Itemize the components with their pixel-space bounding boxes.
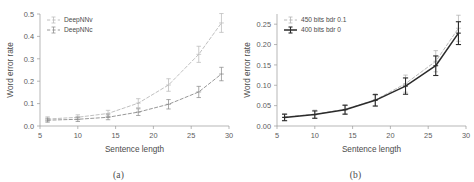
panel-a-caption: (a): [0, 170, 237, 180]
x-tick-label: 15: [348, 131, 356, 140]
chart-a-svg: 510152025300.00.10.20.30.40.5Sentence le…: [0, 0, 237, 158]
legend-item-1[interactable]: DeepNNv: [47, 16, 93, 24]
y-tick-label: 0.1: [24, 99, 34, 108]
y-tick-label: 0.00: [257, 122, 271, 131]
x-tick-label: 10: [74, 131, 82, 140]
x-tick-label: 5: [38, 131, 42, 140]
y-tick-label: 0.10: [257, 81, 271, 90]
y-axis-title: Word error rate: [243, 42, 252, 98]
panel-a: 510152025300.00.10.20.30.40.5Sentence le…: [0, 0, 237, 182]
legend-item-1[interactable]: 450 bits bdr 0.1: [284, 16, 347, 23]
x-tick-label: 20: [149, 131, 157, 140]
panel-b-plot: 510152025300.000.050.100.150.200.25Sente…: [237, 0, 474, 158]
y-axis-title: Word error rate: [6, 42, 15, 98]
legend: DeepNNvDeepNNc: [47, 16, 93, 34]
y-tick-label: 0.5: [24, 10, 34, 19]
y-tick-label: 0.2: [24, 77, 34, 86]
series-line: [48, 23, 222, 119]
panel-a-plot: 510152025300.00.10.20.30.40.5Sentence le…: [0, 0, 237, 158]
series-line: [285, 33, 459, 117]
x-axis-title: Sentence length: [105, 145, 165, 154]
legend: 450 bits bdr 0.1400 bits bdr 0: [284, 16, 347, 33]
x-tick-label: 5: [275, 131, 279, 140]
x-tick-label: 25: [187, 131, 195, 140]
y-tick-label: 0.05: [257, 101, 271, 110]
series-line: [285, 28, 459, 117]
y-tick-label: 0.4: [24, 32, 34, 41]
x-tick-label: 20: [386, 131, 394, 140]
series-line: [48, 74, 222, 120]
series-2: [45, 67, 224, 122]
legend-item-2[interactable]: 400 bits bdr 0: [284, 26, 341, 33]
x-tick-label: 10: [311, 131, 319, 140]
panel-b-caption: (b): [237, 170, 474, 180]
chart-b-svg: 510152025300.000.050.100.150.200.25Sente…: [237, 0, 474, 158]
y-tick-label: 0.25: [257, 20, 271, 29]
panel-b: 510152025300.000.050.100.150.200.25Sente…: [237, 0, 474, 182]
y-tick-label: 0.0: [24, 122, 34, 131]
legend-label: 400 bits bdr 0: [301, 26, 341, 33]
x-tick-label: 25: [424, 131, 432, 140]
x-tick-label: 30: [462, 131, 470, 140]
y-tick-label: 0.3: [24, 55, 34, 64]
series-2: [282, 22, 461, 121]
y-tick-label: 0.15: [257, 61, 271, 70]
figure-container: 510152025300.00.10.20.30.40.5Sentence le…: [0, 0, 474, 182]
legend-label: DeepNNv: [64, 16, 93, 24]
x-tick-label: 15: [111, 131, 119, 140]
legend-label: 450 bits bdr 0.1: [301, 16, 347, 23]
x-axis-title: Sentence length: [342, 145, 402, 154]
legend-label: DeepNNc: [64, 26, 93, 34]
legend-item-2[interactable]: DeepNNc: [47, 26, 93, 34]
y-tick-label: 0.20: [257, 40, 271, 49]
x-tick-label: 30: [225, 131, 233, 140]
